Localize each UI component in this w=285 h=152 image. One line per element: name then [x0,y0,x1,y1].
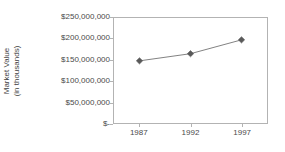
x-axis-tick-label: 1987 [116,128,162,138]
x-axis-tick-label: 1997 [219,128,265,138]
plot-area [113,17,268,124]
y-axis-tick-labels: $-$50,000,000$100,000,000$150,000,000$20… [38,0,110,152]
x-axis-tick-mark [242,124,243,127]
x-axis-tick-mark [139,124,140,127]
series-markers [136,37,244,64]
x-axis-tick-mark [191,124,192,127]
y-axis-title: Market Value (in thousands) [2,16,28,126]
y-axis-title-line-1: Market Value [2,16,12,126]
y-axis-tick-label: $100,000,000 [40,76,110,85]
y-axis-title-line-2: (in thousands) [12,16,22,126]
plot-canvas [114,18,267,123]
y-axis-tick-label: $50,000,000 [40,98,110,107]
data-point-marker [187,51,193,57]
y-axis-tick-label: $- [40,119,110,128]
y-axis-tick-label: $150,000,000 [40,55,110,64]
x-axis-tick-label: 1992 [168,128,214,138]
data-point-marker [238,37,244,43]
data-point-marker [136,58,142,64]
y-axis-tick-label: $200,000,000 [40,33,110,42]
line-chart: Market Value (in thousands) $-$50,000,00… [0,0,285,152]
x-axis-tick-labels: 198719921997 [113,128,268,142]
y-axis-tick-label: $250,000,000 [40,12,110,21]
